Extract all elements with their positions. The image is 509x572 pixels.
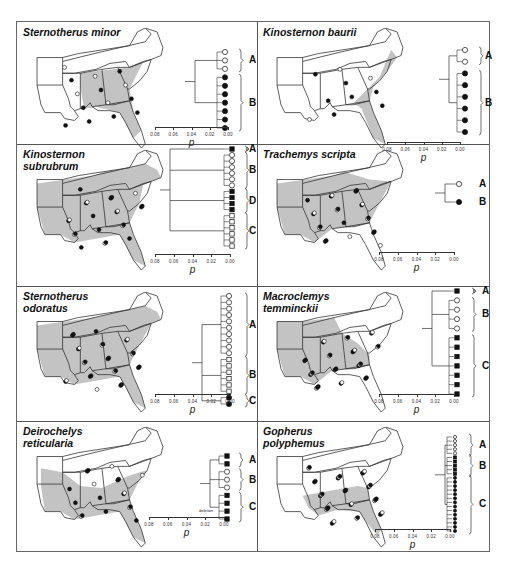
axis-tick-label: 0.02 — [206, 259, 216, 264]
species-title: Sternotherus minor — [23, 26, 120, 38]
axis-tick — [379, 394, 380, 397]
axis-tick — [450, 529, 451, 532]
axis-tick — [193, 394, 194, 397]
axis-tick — [435, 394, 436, 397]
axis-tick — [168, 517, 169, 520]
axis-tick-label: 0.02 — [426, 534, 436, 539]
axis-tick — [417, 394, 418, 397]
axis-tick — [211, 394, 212, 397]
axis-tick — [173, 127, 174, 130]
clade-label-a: A — [485, 50, 492, 61]
clade-label-a: A — [249, 454, 256, 465]
distance-axis: 0.080.060.040.020.00p — [375, 529, 450, 551]
axis-tick — [174, 254, 175, 257]
axis-label: p — [190, 264, 196, 275]
panel-kinosternon-subrubrum: Kinosternon subrubrumABDC0.080.060.040.0… — [17, 144, 254, 276]
axis-tick-label: 0.06 — [163, 522, 173, 527]
axis-tick — [174, 394, 175, 397]
axis-tick — [224, 517, 225, 520]
clade-label-c: C — [479, 498, 486, 509]
clade-label-b: B — [482, 308, 489, 319]
axis-tick-label: 0.08 — [150, 132, 160, 137]
axis-tick-label: 0.02 — [430, 399, 440, 404]
axis-tick — [211, 254, 212, 257]
axis-tick-label: 0.00 — [223, 132, 233, 137]
species-title: Trachemys scripta — [263, 148, 356, 160]
clade-label-c: C — [249, 501, 256, 512]
clade-label-b: B — [479, 196, 486, 207]
axis-tick — [155, 254, 156, 257]
panel-kinosternon-baurii: Kinosternon bauriiAB0.080.060.040.020.00… — [257, 22, 494, 154]
clade-label-a: A — [249, 143, 256, 154]
axis-tick — [454, 394, 455, 397]
panel-sternotherus-minor: Sternotherus minorAB0.080.060.040.020.00… — [17, 22, 254, 154]
axis-tick-label: 0.06 — [169, 399, 179, 404]
clade-label-a: A — [249, 54, 256, 65]
axis-tick — [149, 517, 150, 520]
axis-label: p — [184, 527, 190, 538]
axis-tick — [454, 252, 455, 255]
clade-label-b: B — [485, 97, 492, 108]
axis-tick — [379, 252, 380, 255]
axis-tick-label: 0.06 — [393, 257, 403, 262]
axis-tick — [230, 394, 231, 397]
axis-tick — [210, 127, 211, 130]
clade-label-a: A — [479, 439, 486, 450]
axis-tick-label: 0.06 — [389, 534, 399, 539]
axis-tick-label: 0.02 — [430, 257, 440, 262]
axis-tick-label: 0.06 — [168, 132, 178, 137]
distance-axis: 0.080.060.040.020.00p — [155, 254, 230, 276]
axis-tick-label: 0.00 — [225, 399, 235, 404]
axis-tick-label: 0.06 — [169, 259, 179, 264]
axis-tick-label: 0.08 — [370, 534, 380, 539]
axis-tick-label: 0.02 — [206, 399, 216, 404]
panel-sternotherus-odoratus: Sternotherus odoratusABC0.080.060.040.02… — [17, 286, 254, 418]
clade-label-a: A — [249, 319, 256, 330]
clade-label-b: B — [479, 460, 486, 471]
distance-axis: 0.080.060.040.020.00p — [379, 394, 454, 416]
axis-label: p — [410, 539, 416, 550]
axis-tick — [417, 252, 418, 255]
species-title: Sternotherus odoratus — [23, 290, 88, 314]
clade-label-a: A — [482, 285, 489, 296]
axis-tick-label: 0.06 — [393, 399, 403, 404]
clade-label-b: B — [249, 474, 256, 485]
panel-trachemys-scripta: Trachemys scriptaAB0.080.060.040.020.00p — [257, 144, 494, 276]
species-title: Deirochelys reticularia — [23, 425, 83, 449]
axis-tick — [155, 127, 156, 130]
species-title: Kinosternon subrubrum — [23, 148, 85, 172]
clade-label-d: D — [249, 195, 256, 206]
axis-tick-label: 0.08 — [144, 522, 154, 527]
axis-label: p — [414, 262, 420, 273]
axis-tick-label: 0.00 — [449, 399, 459, 404]
axis-tick-label: 0.00 — [225, 259, 235, 264]
clade-label-a: A — [479, 178, 486, 189]
distance-axis: 0.080.060.040.020.00p — [379, 252, 454, 274]
axis-tick — [205, 517, 206, 520]
axis-tick — [375, 529, 376, 532]
clade-label-c: C — [249, 395, 256, 406]
axis-tick — [398, 394, 399, 397]
axis-tick-label: 0.00 — [219, 522, 229, 527]
panel-macroclemys-temminckii: Macroclemys temminckiiABC0.080.060.040.0… — [257, 286, 494, 418]
panel-deirochelys-reticularia: deletionDeirochelys reticulariaABC0.080.… — [17, 421, 254, 553]
clade-label-c: C — [249, 225, 256, 236]
axis-tick — [435, 252, 436, 255]
phylogenetic-tree — [257, 22, 494, 154]
species-title: Kinosternon baurii — [263, 26, 356, 38]
axis-label: p — [414, 404, 420, 415]
axis-tick-label: 0.08 — [150, 259, 160, 264]
distance-axis: 0.080.060.040.020.00p — [149, 517, 224, 539]
axis-tick-label: 0.08 — [374, 399, 384, 404]
axis-tick-label: 0.08 — [374, 257, 384, 262]
clade-label-b: B — [249, 164, 256, 175]
clade-label-c: C — [482, 360, 489, 371]
axis-tick — [398, 252, 399, 255]
clade-label-b: B — [249, 97, 256, 108]
axis-tick — [431, 529, 432, 532]
axis-tick-label: 0.00 — [445, 534, 455, 539]
panel-gopherus-polyphemus: Gopherus polyphemusABC0.080.060.040.020.… — [257, 421, 494, 553]
clade-label-b: B — [249, 369, 256, 380]
axis-tick-label: 0.00 — [449, 257, 459, 262]
axis-tick — [228, 127, 229, 130]
